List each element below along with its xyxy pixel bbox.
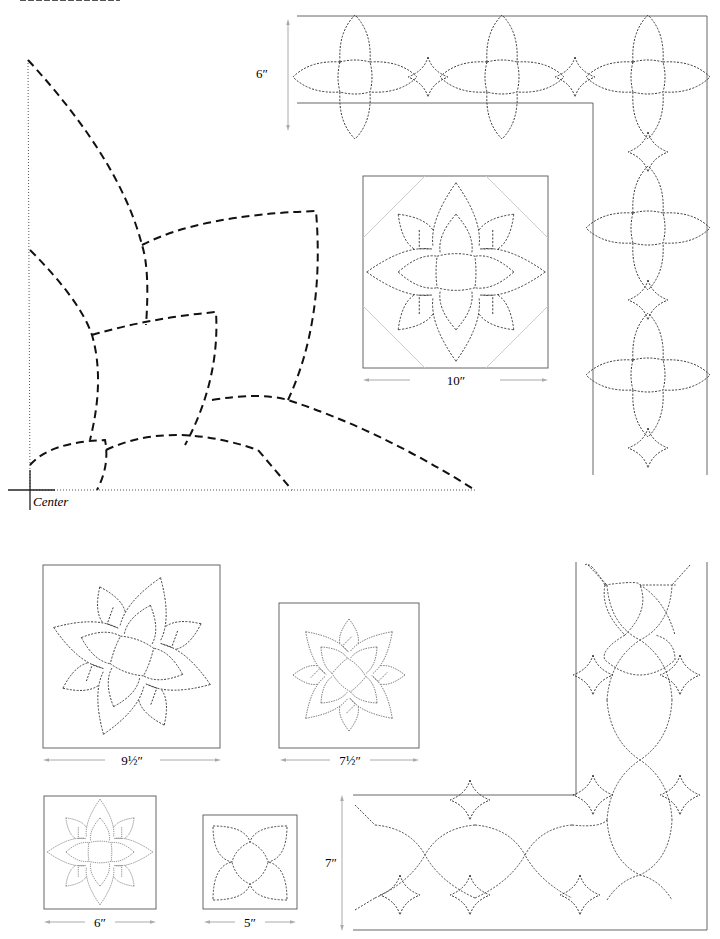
top-border-6in	[288, 15, 710, 475]
block-10in-dimension: 10″	[447, 373, 465, 388]
block-9-5in-dimension: 9½″	[121, 753, 143, 768]
block-10in	[363, 176, 548, 380]
block-5in	[203, 815, 297, 922]
center-label: Center	[33, 494, 69, 509]
block-6in	[44, 796, 156, 922]
pattern-canvas: Center 6″ 10″ 9½″ 7½″	[0, 0, 720, 939]
block-7-5in	[262, 588, 435, 761]
large-lotus-template	[8, 60, 475, 510]
block-9-5in	[25, 549, 239, 763]
block-7-5in-dimension: 7½″	[339, 753, 361, 768]
block-6in-dimension: 6″	[94, 915, 106, 930]
top-border-dimension: 6″	[256, 66, 268, 81]
bottom-border-7in	[342, 562, 707, 930]
block-5in-dimension: 5″	[244, 915, 256, 930]
bottom-border-dimension: 7″	[325, 855, 337, 870]
